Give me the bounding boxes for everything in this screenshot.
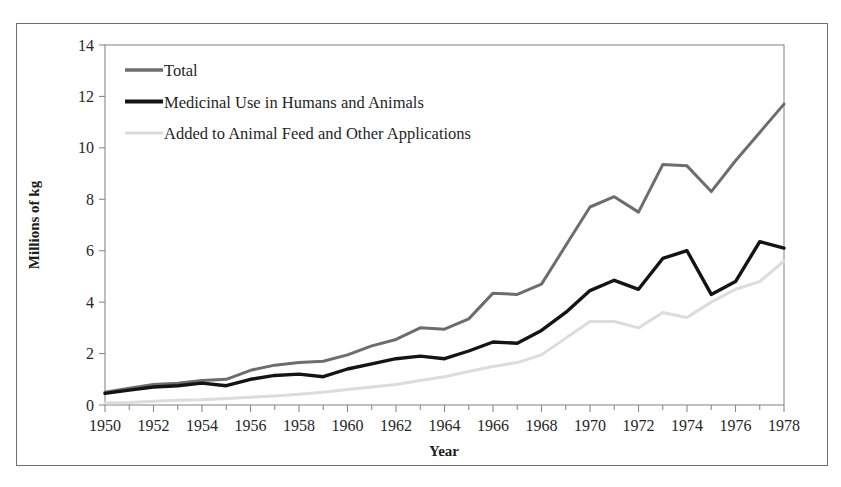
x-tick-label: 1952 [138,417,170,434]
legend-label-3: Added to Animal Feed and Other Applicati… [164,124,471,143]
series-line-1 [105,104,784,392]
y-tick-label: 4 [86,294,94,311]
x-axis-title: Year [429,443,459,459]
x-tick-label: 1968 [526,417,558,434]
y-axis-ticks: 02468101214 [78,37,105,414]
y-axis-title: Millions of kg [26,180,42,269]
x-tick-label: 1950 [89,417,121,434]
x-tick-label: 1972 [623,417,655,434]
data-series-group [105,104,784,403]
y-tick-label: 6 [86,242,94,259]
y-tick-label: 2 [86,345,94,362]
x-tick-label: 1960 [332,417,364,434]
x-tick-label: 1976 [720,417,752,434]
x-axis-ticks: 1950195219541956195819601962196419661968… [89,405,800,434]
y-tick-label: 12 [78,88,94,105]
chart-legend: TotalMedicinal Use in Humans and Animals… [125,61,471,143]
x-tick-label: 1964 [429,417,461,434]
x-tick-label: 1966 [477,417,509,434]
x-tick-label: 1962 [380,417,412,434]
chart-figure-frame: Millions of kg 02468101214 1950195219541… [16,23,828,466]
x-tick-label: 1970 [574,417,606,434]
legend-label-1: Total [164,61,198,80]
x-tick-label: 1958 [283,417,315,434]
y-tick-label: 8 [86,191,94,208]
x-tick-label: 1978 [768,417,800,434]
y-tick-label: 14 [78,37,94,54]
x-tick-label: 1956 [235,417,267,434]
x-tick-label: 1974 [671,417,703,434]
legend-label-2: Medicinal Use in Humans and Animals [164,93,424,112]
y-tick-label: 10 [78,139,94,156]
line-chart: Millions of kg 02468101214 1950195219541… [17,24,827,465]
y-tick-label: 0 [86,397,94,414]
x-tick-label: 1954 [186,417,218,434]
